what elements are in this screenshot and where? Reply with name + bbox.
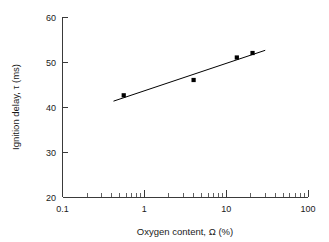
data-point xyxy=(235,55,239,59)
x-tick-label-10: 10 xyxy=(221,204,231,214)
x-tick-label-100: 100 xyxy=(300,204,315,214)
y-axis-ticks: 20 30 40 50 60 xyxy=(46,13,68,203)
y-tick-label-30: 30 xyxy=(46,148,56,158)
x-tick-label-1: 1 xyxy=(142,204,147,214)
x-tick-label-0.1: 0.1 xyxy=(56,204,69,214)
data-point xyxy=(122,93,126,97)
y-tick-label-20: 20 xyxy=(46,193,56,203)
y-tick-label-50: 50 xyxy=(46,58,56,68)
data-point xyxy=(250,51,254,55)
data-point-group xyxy=(122,51,255,97)
x-axis-minor-ticks xyxy=(87,193,304,197)
y-axis-title: Ignition delay, τ (ms) xyxy=(10,64,21,150)
y-tick-label-60: 60 xyxy=(46,13,56,23)
x-axis-ticks: 0.1 1 10 100 xyxy=(56,190,315,214)
data-point xyxy=(192,78,196,82)
axes-group xyxy=(63,17,309,197)
y-tick-label-40: 40 xyxy=(46,103,56,113)
linear-fit-line xyxy=(114,50,266,101)
trend-line-group xyxy=(114,50,266,101)
x-axis-title: Oxygen content, Ω (%) xyxy=(137,226,233,237)
chart-canvas: 20 30 40 50 60 0.1 1 10 100 Oxygen conte… xyxy=(0,0,329,242)
